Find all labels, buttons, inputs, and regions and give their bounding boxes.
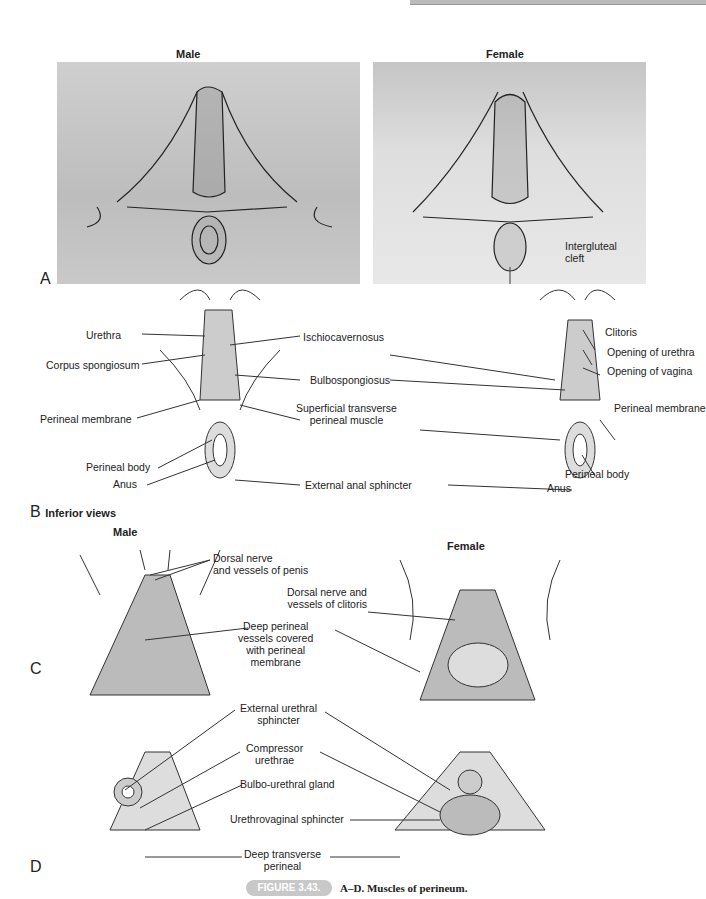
- panel-b-subtitle: Inferior views: [45, 507, 116, 519]
- panel-c-letter: C: [30, 660, 42, 678]
- label-ischiocavernosus: Ischiocavernosus: [303, 331, 384, 343]
- label-opening-vagina: Opening of vagina: [607, 365, 692, 377]
- panel-b-heading: B Inferior views: [30, 503, 116, 521]
- label-deep-transverse-perineal: Deep transverse perineal: [244, 848, 321, 872]
- label-intergluteal-cleft: Intergluteal cleft: [565, 240, 617, 264]
- panel-a-female-title: Female: [486, 48, 524, 60]
- label-corpus-spongiosum: Corpus spongiosum: [46, 359, 139, 371]
- label-compressor-urethrae: Compressor urethrae: [246, 742, 303, 766]
- label-dorsal-nerve-penis: Dorsal nerve and vessels of penis: [213, 552, 308, 576]
- label-anus-female: Anus: [547, 482, 571, 494]
- figure-number-badge: FIGURE 3.43.: [246, 880, 332, 896]
- label-perineal-membrane-male: Perineal membrane: [40, 413, 132, 425]
- label-anus-male: Anus: [113, 478, 137, 490]
- label-bulbo-urethral-gland: Bulbo-urethral gland: [240, 778, 335, 790]
- label-perineal-body-male: Perineal body: [86, 461, 150, 473]
- label-superficial-transverse-perineal: Superficial transverse perineal muscle: [296, 402, 397, 426]
- label-external-anal-sphincter: External anal sphincter: [305, 479, 412, 491]
- male-muscle-overlay: [57, 62, 360, 284]
- label-bulbospongiosus: Bulbospongiosus: [310, 374, 390, 386]
- label-opening-urethra: Opening of urethra: [607, 346, 695, 358]
- panel-b-letter: B: [30, 503, 41, 520]
- label-dorsal-nerve-clitoris: Dorsal nerve and vessels of clitoris: [287, 586, 367, 610]
- label-external-urethral-sphincter: External urethral sphincter: [240, 702, 317, 726]
- male-perineum-photo: [57, 62, 360, 284]
- label-clitoris: Clitoris: [605, 326, 637, 338]
- panel-c-female-title: Female: [447, 540, 485, 552]
- label-perineal-membrane-female: Perineal membrane: [614, 402, 706, 414]
- panel-a-male-title: Male: [176, 48, 200, 60]
- label-perineal-body-female: Perineal body: [565, 468, 629, 480]
- panel-d-letter: D: [30, 858, 42, 876]
- panel-c-male-title: Male: [113, 526, 137, 538]
- panel-a-letter: A: [40, 270, 51, 288]
- label-urethra: Urethra: [86, 329, 121, 341]
- figure-caption: A–D. Muscles of perineum.: [340, 880, 467, 896]
- page-header-bar: [410, 0, 706, 5]
- label-urethrovaginal-sphincter: Urethrovaginal sphincter: [230, 813, 344, 825]
- label-deep-perineal-vessels: Deep perineal vessels covered with perin…: [238, 620, 313, 668]
